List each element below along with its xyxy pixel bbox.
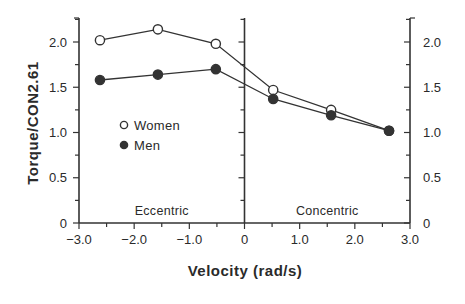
x-tick-label: −2.0: [121, 232, 147, 247]
chart-canvas: 000.50.51.01.01.51.52.02.0−3.0−2.0−1.001…: [0, 0, 465, 304]
right-y-tick-label: 1.0: [423, 125, 441, 140]
right-y-tick-label: 0.5: [423, 170, 441, 185]
filled-circle-marker: [153, 70, 162, 79]
filled-circle-marker: [269, 94, 278, 103]
filled-circle-marker: [211, 65, 220, 74]
left-y-tick-label: 0: [60, 216, 67, 231]
legend-open-circle-icon: [120, 121, 127, 128]
filled-circle-marker: [384, 126, 393, 135]
right-y-tick-label: 0: [423, 216, 430, 231]
filled-circle-marker: [95, 75, 104, 84]
torque-velocity-chart: 000.50.51.01.01.51.52.02.0−3.0−2.0−1.001…: [0, 0, 465, 304]
x-tick-label: −1.0: [176, 232, 202, 247]
right-y-tick-label: 1.5: [423, 80, 441, 95]
y-axis-title: Torque/CON2.61: [24, 61, 41, 184]
left-y-tick-label: 1.0: [49, 125, 67, 140]
region-label-concentric: Concentric: [296, 204, 359, 218]
x-tick-label: −3.0: [66, 232, 92, 247]
axes: 000.50.51.01.01.51.52.02.0−3.0−2.0−1.001…: [49, 18, 441, 247]
x-axis-title: Velocity (rad/s): [188, 262, 303, 279]
x-tick-label: 0: [241, 232, 248, 247]
legend-label-men: Men: [134, 138, 160, 153]
x-tick-label: 1.0: [291, 232, 309, 247]
open-circle-marker: [153, 25, 162, 34]
open-circle-marker: [95, 36, 104, 45]
x-tick-label: 3.0: [401, 232, 419, 247]
left-y-tick-label: 1.5: [49, 80, 67, 95]
legend: WomenMen: [120, 118, 180, 153]
left-y-tick-label: 2.0: [49, 35, 67, 50]
open-circle-marker: [269, 85, 278, 94]
filled-circle-marker: [327, 111, 336, 120]
x-tick-label: 2.0: [346, 232, 364, 247]
region-label-eccentric: Eccentric: [135, 204, 189, 218]
open-circle-marker: [211, 39, 220, 48]
legend-filled-circle-icon: [120, 141, 127, 148]
left-y-tick-label: 0.5: [49, 170, 67, 185]
right-y-tick-label: 2.0: [423, 35, 441, 50]
legend-label-women: Women: [134, 118, 180, 133]
